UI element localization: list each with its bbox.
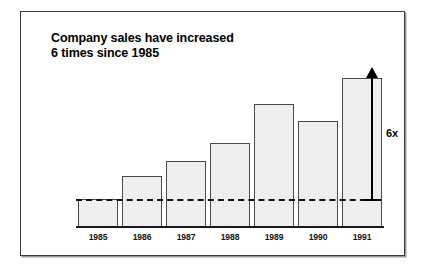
arrow-foot-tick bbox=[364, 199, 381, 201]
plot-area: 6x 1985198619871988198919901991 bbox=[56, 52, 401, 237]
bar-1989 bbox=[254, 104, 294, 226]
x-tick-label-1987: 1987 bbox=[162, 232, 210, 242]
x-tick-label-1985: 1985 bbox=[74, 232, 122, 242]
x-tick-label-1991: 1991 bbox=[338, 232, 386, 242]
x-tick-label-1990: 1990 bbox=[294, 232, 342, 242]
bar-1986 bbox=[122, 176, 162, 226]
arrow-shaft bbox=[371, 75, 373, 201]
baseline-reference-dashed-line bbox=[76, 199, 376, 201]
bar-1988 bbox=[210, 143, 250, 226]
bar-1990 bbox=[298, 121, 338, 226]
bar-1987 bbox=[166, 161, 206, 226]
x-tick-label-1986: 1986 bbox=[118, 232, 166, 242]
x-axis-tick-labels: 1985198619871988198919901991 bbox=[56, 232, 401, 248]
bar-1985 bbox=[78, 199, 118, 226]
growth-multiplier-label: 6x bbox=[386, 127, 398, 139]
growth-arrow-annotation: 6x bbox=[362, 70, 408, 210]
figure-frame: Company sales have increased 6 times sin… bbox=[20, 11, 405, 256]
x-tick-label-1989: 1989 bbox=[250, 232, 298, 242]
x-tick-label-1988: 1988 bbox=[206, 232, 254, 242]
x-axis-line bbox=[76, 226, 384, 228]
